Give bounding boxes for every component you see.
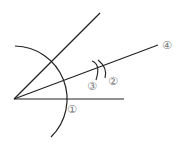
label-step-1: ① bbox=[67, 103, 77, 116]
compass-arc-large bbox=[15, 46, 67, 137]
compass-arc-small-2 bbox=[98, 60, 106, 78]
bisector-ray bbox=[14, 45, 158, 99]
compass-arc-small-3 bbox=[92, 61, 98, 80]
diagram-canvas: ① ② ③ ④ bbox=[0, 0, 187, 148]
label-step-4: ④ bbox=[162, 39, 172, 52]
angle-bisector-diagram: ① ② ③ ④ bbox=[0, 0, 187, 148]
label-step-2: ② bbox=[108, 75, 118, 88]
label-step-3: ③ bbox=[87, 80, 97, 93]
